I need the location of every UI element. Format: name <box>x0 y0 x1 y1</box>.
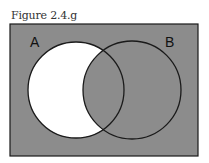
venn-diagram: A B <box>0 0 209 163</box>
set-b-label: B <box>165 34 174 50</box>
set-a-label: A <box>30 34 40 50</box>
